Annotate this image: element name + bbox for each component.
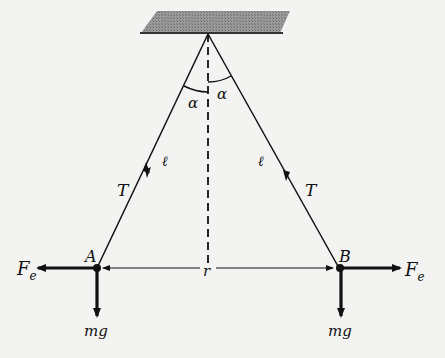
weight-label-left: mg xyxy=(84,322,108,340)
angle-arc-left xyxy=(184,86,208,92)
length-label-left: ℓ xyxy=(162,153,168,169)
diagram-canvas: α α ℓ ℓ T T A B r Fe Fe mg mg xyxy=(0,0,445,358)
angle-label-left: α xyxy=(188,94,198,112)
angle-arc-right xyxy=(208,76,231,82)
string-right xyxy=(208,34,339,268)
weight-label-right: mg xyxy=(328,322,352,340)
separation-label: r xyxy=(203,262,211,280)
electric-force-label-right: Fe xyxy=(404,259,425,284)
tension-label-right: T xyxy=(305,180,318,200)
point-label-b: B xyxy=(338,247,351,266)
point-label-a: A xyxy=(83,247,97,266)
length-label-right: ℓ xyxy=(258,153,264,169)
string-left xyxy=(97,34,208,268)
ceiling-support xyxy=(141,11,290,33)
electric-force-label-left: Fe xyxy=(16,258,37,283)
charged-pendulum-diagram: α α ℓ ℓ T T A B r Fe Fe mg mg xyxy=(0,0,445,358)
angle-label-right: α xyxy=(217,85,227,103)
tension-label-left: T xyxy=(117,180,130,200)
